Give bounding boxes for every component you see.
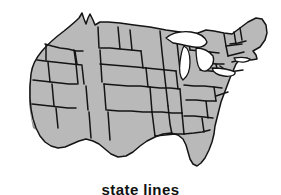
figure-container: state lines bbox=[0, 0, 281, 195]
us-state-lines-map bbox=[0, 0, 281, 195]
landmass-layer bbox=[30, 13, 267, 166]
figure-caption: state lines bbox=[0, 181, 281, 195]
us-mainland-outline bbox=[30, 13, 267, 166]
state-line-mt-wy-vertical bbox=[98, 27, 99, 48]
lake-ontario bbox=[234, 57, 250, 62]
